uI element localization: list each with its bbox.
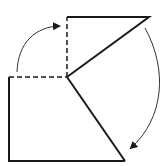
square-outline (9, 77, 125, 161)
arrow-left-up-icon (17, 26, 59, 72)
rotation-diagram (0, 0, 165, 166)
diagonal-edge (67, 77, 125, 161)
rotated-triangle (67, 17, 149, 77)
arrow-right-down-icon (131, 28, 160, 148)
